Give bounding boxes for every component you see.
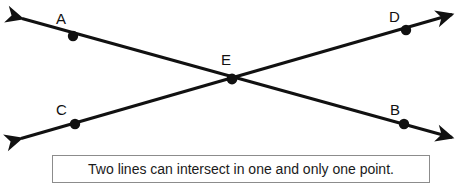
figure-canvas: A D E C B Two lines can intersect in one… — [0, 0, 473, 194]
point-e-intersection-dot — [227, 74, 238, 85]
point-c-dot — [70, 119, 80, 129]
caption-box: Two lines can intersect in one and only … — [52, 155, 430, 183]
point-c-label: C — [56, 102, 67, 117]
point-d-label: D — [389, 9, 400, 24]
caption-text: Two lines can intersect in one and only … — [88, 161, 394, 177]
point-a-dot — [68, 31, 78, 41]
point-b-label: B — [390, 102, 400, 117]
point-e-label: E — [221, 52, 231, 67]
point-b-dot — [399, 119, 409, 129]
point-a-label: A — [56, 11, 66, 26]
point-d-dot — [401, 25, 411, 35]
